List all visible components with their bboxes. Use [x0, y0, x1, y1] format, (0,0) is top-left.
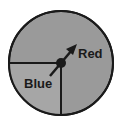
spinner-diagram: Red Blue: [0, 0, 121, 125]
label-red: Red: [78, 46, 103, 61]
label-blue: Blue: [24, 76, 52, 91]
pointer-pivot: [56, 58, 66, 68]
